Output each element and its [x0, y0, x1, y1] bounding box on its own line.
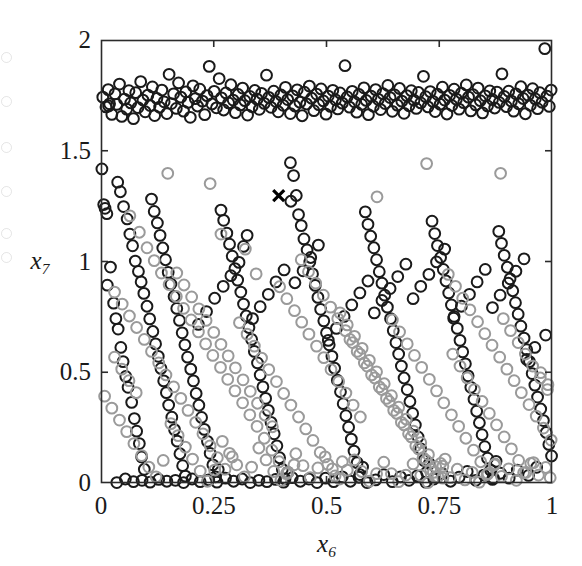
- marker-circle: [285, 157, 296, 168]
- marker-circle: [497, 68, 508, 79]
- marker-circle: [516, 387, 527, 398]
- marker-circle: [318, 315, 329, 326]
- marker-circle: [138, 288, 149, 299]
- marker-circle: [156, 85, 167, 96]
- y-axis-title-base: x: [31, 247, 42, 274]
- marker-circle: [431, 385, 442, 396]
- marker-circle: [155, 230, 166, 241]
- marker-circle: [480, 264, 491, 275]
- marker-circle: [394, 327, 405, 338]
- marker-circle: [271, 376, 282, 387]
- marker-circle: [193, 400, 204, 411]
- marker-circle: [402, 384, 413, 395]
- x-tick-label-1: 0.25: [154, 493, 274, 518]
- marker-circle: [224, 239, 235, 250]
- marker-circle: [135, 76, 146, 87]
- marker-circle: [365, 231, 376, 242]
- marker-circle: [161, 387, 172, 398]
- marker-circle: [216, 205, 227, 216]
- marker-circle: [281, 293, 292, 304]
- marker-circle: [109, 287, 120, 298]
- marker-circle: [461, 80, 472, 91]
- marker-circle: [156, 268, 167, 279]
- edge-artifact: [1, 96, 12, 107]
- marker-circle: [242, 230, 253, 241]
- marker-circle: [446, 409, 457, 420]
- marker-circle: [204, 61, 215, 72]
- marker-circle: [146, 194, 157, 205]
- marker-circle: [363, 276, 374, 287]
- marker-circle: [158, 455, 169, 466]
- marker-circle: [346, 300, 357, 311]
- marker-circle: [472, 276, 483, 287]
- marker-circle: [216, 339, 227, 350]
- marker-circle: [227, 251, 238, 262]
- marker-circle: [408, 293, 419, 304]
- marker-circle: [252, 398, 263, 409]
- marker-circle: [130, 256, 141, 267]
- marker-circle: [400, 259, 411, 270]
- marker-circle: [505, 325, 516, 336]
- marker-circle: [200, 339, 211, 350]
- marker-circle: [205, 178, 216, 189]
- marker-circle: [245, 386, 256, 397]
- marker-circle: [502, 364, 513, 375]
- marker-circle: [234, 317, 245, 328]
- marker-circle: [133, 266, 144, 277]
- x-tick-label-4: 1: [492, 493, 582, 518]
- marker-circle: [513, 309, 524, 320]
- marker-circle: [479, 441, 490, 452]
- marker-circle: [199, 109, 210, 120]
- marker-circle: [308, 435, 319, 446]
- marker-circle: [263, 289, 274, 300]
- marker-circle: [304, 329, 315, 340]
- marker-circle: [164, 69, 175, 80]
- marker-circle: [346, 434, 357, 445]
- marker-circle: [230, 362, 241, 373]
- marker-circle: [187, 454, 198, 465]
- marker-circle: [450, 281, 461, 292]
- marker-circle: [495, 168, 506, 179]
- marker-circle: [443, 288, 454, 299]
- marker-circle: [217, 436, 228, 447]
- marker-circle: [455, 335, 466, 346]
- marker-circle: [477, 429, 488, 440]
- marker-circle: [393, 349, 404, 360]
- marker-circle: [468, 445, 479, 456]
- marker-circle: [237, 397, 248, 408]
- marker-circle: [168, 381, 179, 392]
- marker-circle: [241, 311, 252, 322]
- marker-circle: [244, 409, 255, 420]
- marker-circle: [185, 112, 196, 123]
- marker-circle: [391, 337, 402, 348]
- marker-circle: [238, 374, 249, 385]
- marker-circle: [177, 460, 188, 471]
- marker-circle: [191, 388, 202, 399]
- marker-circle: [225, 79, 236, 90]
- marker-circle: [208, 327, 219, 338]
- marker-circle: [382, 80, 393, 91]
- marker-circle: [293, 209, 304, 220]
- scatter-plot-figure: 0 0.5 1 1.5 2 0 0.25 0.5 0.75 1 x6 x7: [0, 0, 582, 566]
- marker-circle: [263, 364, 274, 375]
- marker-circle: [363, 219, 374, 230]
- marker-circle: [499, 432, 510, 443]
- marker-circle: [162, 168, 173, 179]
- marker-circle: [278, 388, 289, 399]
- marker-circle: [109, 352, 120, 363]
- marker-circle: [343, 422, 354, 433]
- marker-circle: [152, 218, 163, 229]
- marker-circle: [399, 373, 410, 384]
- marker-circle: [261, 455, 272, 466]
- marker-circle: [453, 421, 464, 432]
- x-tick-label-2: 0.5: [267, 493, 387, 518]
- marker-circle: [472, 316, 483, 327]
- marker-circle: [179, 339, 190, 350]
- marker-circle: [163, 400, 174, 411]
- marker-circle: [416, 362, 427, 373]
- marker-circle: [408, 459, 419, 470]
- marker-circle: [313, 463, 324, 474]
- marker-circle: [494, 352, 505, 363]
- marker-circle: [519, 253, 530, 264]
- marker-circle: [340, 410, 351, 421]
